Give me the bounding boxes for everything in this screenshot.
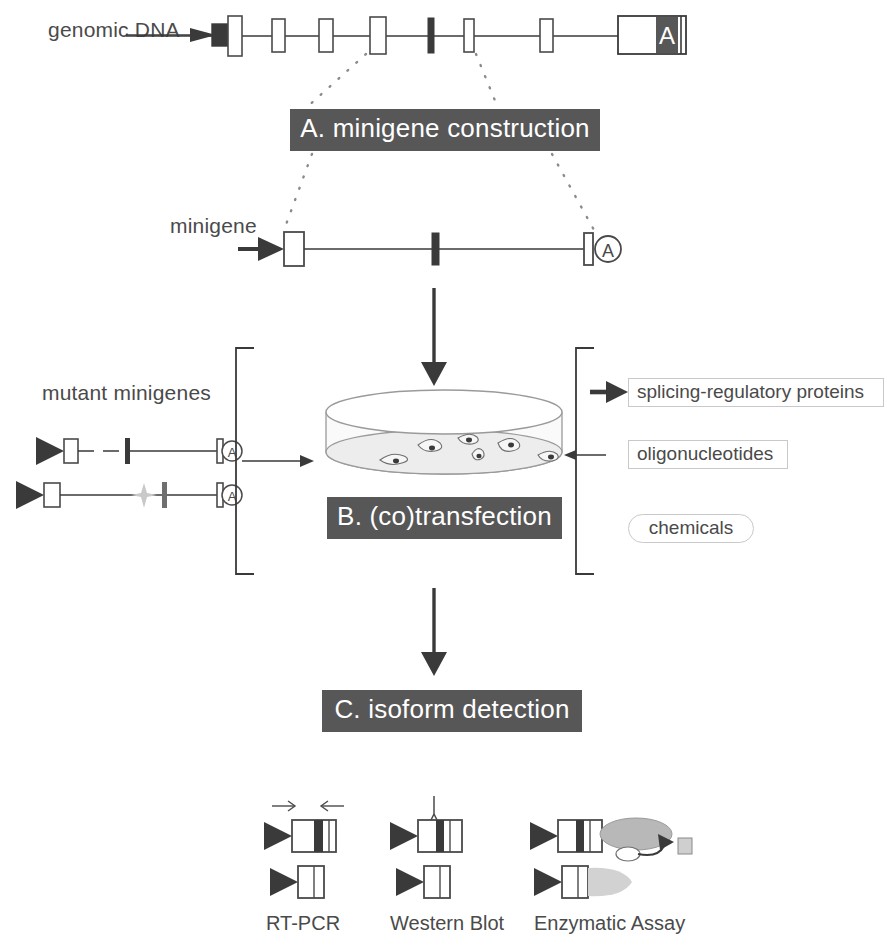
arrow-to-detection <box>414 588 454 678</box>
reagent-arrow-oligonucleotides <box>564 445 606 465</box>
polya-glyph: A <box>602 241 614 261</box>
reagent-splicing-regulatory-proteins[interactable]: splicing-regulatory proteins <box>628 378 884 407</box>
dotted-connector-middle <box>270 152 600 234</box>
rt-pcr-icon-group <box>258 796 376 906</box>
dotted-connector-top <box>280 52 510 110</box>
promoter-arrow-icon <box>270 868 298 896</box>
enzymatic-assay-icon-group <box>528 796 708 906</box>
promoter-arrow-icon <box>530 822 558 850</box>
minigene-diagram: A <box>236 226 628 272</box>
mutant-minigene-1: A <box>34 434 249 468</box>
promoter-arrow-icon <box>396 868 424 896</box>
banner-isoform-detection: C. isoform detection <box>322 690 582 732</box>
minigene-workflow-figure: genomic DNA A <box>0 0 887 945</box>
mutant-minigenes-label: mutant minigenes <box>42 382 211 403</box>
substrate-icon <box>616 847 640 861</box>
mutant-minigenes-bracket <box>228 346 328 576</box>
arrow-to-transfection <box>414 288 454 388</box>
genomic-polya-glyph: A <box>659 22 675 49</box>
promoter-arrow-icon <box>264 822 292 850</box>
method-label-rt-pcr: RT-PCR <box>266 913 340 933</box>
promoter-arrow-icon <box>16 481 44 509</box>
primer-arrows-icon <box>272 801 344 811</box>
mutant-minigene-2: A <box>14 478 249 512</box>
point-mutation-star-icon <box>131 483 157 508</box>
promoter-arrow-icon <box>126 28 216 42</box>
western-blot-icon-group <box>384 796 502 906</box>
banner-minigene-construction: A. minigene construction <box>290 109 600 151</box>
promoter-arrow-icon <box>390 822 418 850</box>
method-label-western-blot: Western Blot <box>390 913 504 933</box>
method-label-enzymatic-assay: Enzymatic Assay <box>534 913 685 933</box>
banner-cotransfection: B. (co)transfection <box>327 497 562 539</box>
reagent-chemicals[interactable]: chemicals <box>628 514 754 543</box>
reagent-arrow-proteins <box>590 379 630 405</box>
reagent-oligonucleotides[interactable]: oligonucleotides <box>628 440 788 469</box>
promoter-arrow-icon <box>36 437 64 465</box>
petri-dish-illustration <box>322 398 566 498</box>
promoter-arrow-icon <box>534 868 562 896</box>
product-icon <box>678 838 692 854</box>
inactive-enzyme-icon <box>588 868 632 896</box>
promoter-arrow-icon <box>238 237 284 261</box>
